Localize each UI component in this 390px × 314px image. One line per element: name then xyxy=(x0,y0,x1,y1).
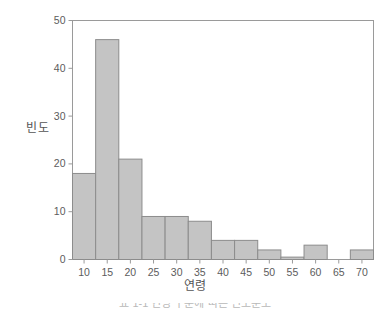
histogram-figure: 빈도 0102030405010152025303540455055606570… xyxy=(0,0,390,314)
histogram-bar xyxy=(235,240,258,259)
plot-area: 0102030405010152025303540455055606570 xyxy=(0,0,390,314)
y-axis-tick-label: 50 xyxy=(54,14,66,26)
y-axis-tick-label: 0 xyxy=(60,253,66,265)
histogram-bar xyxy=(211,240,234,259)
histogram-bar xyxy=(165,216,188,259)
histogram-bar xyxy=(281,257,304,259)
x-axis-title: 연령 xyxy=(0,276,390,293)
y-axis-tick-label: 30 xyxy=(54,110,66,122)
histogram-bar xyxy=(119,159,142,259)
histogram-bar xyxy=(96,40,119,260)
figure-caption: 표 1-1 연령 구분에 따른 빈도분포 xyxy=(0,303,390,314)
figure-caption-text: 표 1-1 연령 구분에 따른 빈도분포 xyxy=(0,303,390,310)
histogram-bar xyxy=(258,250,281,260)
histogram-bar xyxy=(188,221,211,259)
histogram-bar xyxy=(142,216,165,259)
histogram-bar xyxy=(350,250,373,260)
y-axis-tick-label: 20 xyxy=(54,157,66,169)
y-axis-tick-label: 40 xyxy=(54,62,66,74)
histogram-bar xyxy=(304,245,327,259)
histogram-bar xyxy=(73,173,96,259)
y-axis-tick-label: 10 xyxy=(54,205,66,217)
